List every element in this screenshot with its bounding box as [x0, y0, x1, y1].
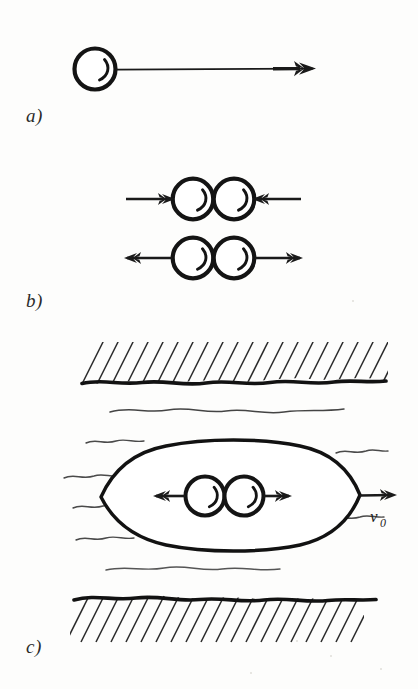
- sphere-single: [75, 49, 116, 90]
- velocity-label-v0: v 0: [370, 507, 386, 530]
- arrow-compression-right: [252, 193, 301, 205]
- arrow-expansion-right: [255, 252, 303, 264]
- scan-speck: [330, 655, 332, 657]
- velocity-subscript: 0: [380, 516, 386, 530]
- top-wall-boundary: [82, 381, 386, 384]
- arrow-expansion-left: [124, 252, 172, 264]
- sphere-pair-compression: [173, 179, 255, 220]
- scan-speck: [250, 672, 252, 674]
- panel-label-a: a): [26, 105, 43, 127]
- bottom-wall-boundary: [74, 597, 376, 601]
- scan-speck: [296, 640, 298, 642]
- velocity-symbol: v: [370, 507, 378, 526]
- figure-canvas: v 0 a) b) c): [0, 0, 418, 689]
- panel-b-group: [124, 179, 303, 279]
- channel-bottom-wall: [66, 590, 377, 642]
- arrow-compression-left: [126, 193, 175, 205]
- panel-a-group: [75, 49, 317, 90]
- panel-label-b: b): [26, 290, 43, 312]
- scan-speck: [352, 300, 354, 302]
- scan-speck: [380, 668, 382, 670]
- physics-diagram: v 0: [0, 0, 418, 689]
- fluid-wave-bottom: [106, 567, 280, 570]
- arrow-v0: [360, 489, 397, 501]
- sphere-pair-expansion: [173, 238, 255, 279]
- panel-c-group: v 0: [64, 340, 404, 642]
- panel-label-c: c): [26, 636, 42, 658]
- velocity-arrow-a: [116, 61, 316, 76]
- fluid-wave-top: [110, 409, 344, 413]
- channel-top-wall: [78, 340, 404, 392]
